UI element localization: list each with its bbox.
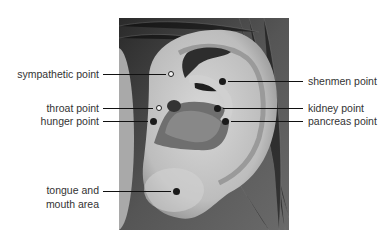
marker-pancreas-point (222, 118, 229, 125)
leader-line-shenmen (228, 81, 303, 82)
label-kidney-point: kidney point (308, 102, 364, 114)
marker-shenmen-point (219, 78, 226, 85)
label-throat-point: throat point (0, 102, 99, 114)
label-hunger-point: hunger point (0, 115, 99, 127)
marker-sympathetic-point (168, 71, 174, 77)
label-sympathetic-point: sympathetic point (0, 68, 99, 80)
leader-line-pancreas (231, 121, 303, 122)
ear-illustration (119, 18, 289, 230)
marker-throat-point (156, 105, 162, 111)
marker-kidney-point (214, 105, 221, 112)
label-pancreas-point: pancreas point (308, 115, 377, 127)
label-tongue-line1: tongue and (0, 184, 99, 196)
leader-line-throat (103, 108, 153, 109)
marker-tongue-mouth-area (173, 188, 180, 195)
ear-photo (119, 18, 289, 230)
leader-line-hunger (103, 121, 148, 122)
leader-line-sympathetic (103, 74, 166, 75)
label-tongue-line2: mouth area (0, 198, 99, 210)
label-shenmen-point: shenmen point (308, 75, 377, 87)
leader-line-kidney (223, 108, 303, 109)
leader-line-tongue (103, 191, 171, 192)
marker-hunger-point (150, 118, 157, 125)
